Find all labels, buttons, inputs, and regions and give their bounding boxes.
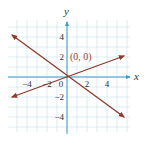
origin-annotation: (0, 0) — [70, 51, 92, 63]
x-tick-label: 2 — [85, 79, 90, 89]
x-tick-label: 0 — [59, 79, 64, 89]
y-axis-label: y — [63, 5, 69, 17]
coordinate-plane: −4−202442−2−4 x y (0, 0) — [0, 0, 144, 142]
y-tick-label: 4 — [60, 32, 65, 42]
x-tick-label: 4 — [105, 79, 110, 89]
y-tick-label: 2 — [60, 52, 65, 62]
x-axis-label: x — [133, 70, 139, 82]
x-tick-label: −2 — [42, 79, 52, 89]
y-tick-label: −2 — [54, 92, 64, 102]
x-tick-label: −4 — [22, 79, 32, 89]
y-tick-label: −4 — [54, 112, 64, 122]
